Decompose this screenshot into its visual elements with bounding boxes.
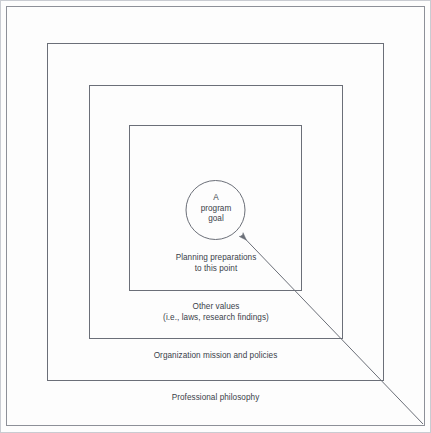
nested-context-diagram: A program goal Planning preparations to … [0,0,431,433]
program-goal-line-1: A [186,193,246,204]
program-goal-label: A program goal [186,193,246,225]
organization-mission-line-1: Organization mission and policies [49,350,382,361]
other-values-line-1: Other values [91,301,341,312]
professional-philosophy-line-1: Professional philosophy [8,392,423,403]
ring-label-organization-mission: Organization mission and policies [49,350,382,361]
program-goal-line-2: program [186,204,246,215]
ring-label-planning-preparations: Planning preparations to this point [131,252,301,274]
planning-preparations-line-2: to this point [131,263,301,274]
other-values-line-2: (i.e., laws, research findings) [91,312,341,323]
ring-label-other-values: Other values (i.e., laws, research findi… [91,301,341,323]
ring-label-professional-philosophy: Professional philosophy [8,392,423,403]
planning-preparations-line-1: Planning preparations [131,252,301,263]
program-goal-line-3: goal [186,214,246,225]
